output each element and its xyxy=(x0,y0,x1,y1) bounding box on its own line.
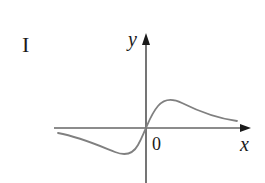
y-axis-label: y xyxy=(128,29,137,49)
figure: I y 0 x xyxy=(0,0,265,183)
panel-label: I xyxy=(22,34,29,56)
origin-label: 0 xyxy=(152,135,161,153)
function-curve xyxy=(58,100,237,154)
x-axis-arrow-icon xyxy=(240,124,251,132)
y-axis-arrow-icon xyxy=(142,33,150,45)
x-axis-label: x xyxy=(240,134,249,154)
